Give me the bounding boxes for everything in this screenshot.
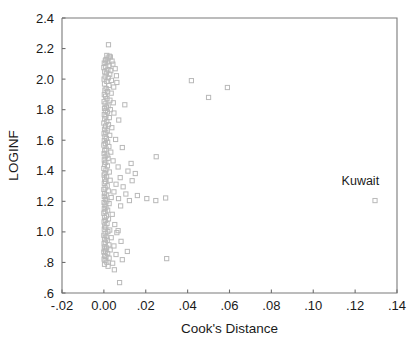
x-tick-label: .06 [220, 298, 238, 313]
data-point [165, 257, 169, 261]
x-tick-label: -.02 [51, 298, 73, 313]
data-point [145, 196, 149, 200]
data-point [111, 159, 115, 163]
data-point [123, 103, 127, 107]
data-point [373, 198, 377, 202]
data-point [129, 161, 133, 165]
x-tick-label: .04 [179, 298, 197, 313]
data-point [154, 155, 158, 159]
data-point [113, 222, 117, 226]
data-point [116, 165, 120, 169]
x-tick-label: .08 [262, 298, 280, 313]
x-tick-label: .14 [388, 298, 406, 313]
annotations-layer: Kuwait [342, 174, 380, 188]
y-tick-label: 2.4 [36, 11, 54, 26]
data-point [126, 169, 130, 173]
data-point [121, 185, 125, 189]
data-point [103, 88, 107, 92]
y-tick-label: .6 [43, 286, 54, 301]
data-point [107, 83, 111, 87]
data-point [109, 195, 113, 199]
data-point [106, 43, 110, 47]
data-point [125, 249, 129, 253]
data-point [120, 258, 124, 262]
data-point [110, 212, 114, 216]
y-axis-title: LOGINF [6, 130, 21, 180]
data-point [115, 80, 119, 84]
data-point [117, 281, 121, 285]
x-axis-tick-labels: -.020.00.02.04.06.08.10.12.14 [51, 298, 406, 313]
y-tick-label: 2.0 [36, 72, 54, 87]
data-point [133, 171, 137, 175]
data-point [112, 85, 116, 89]
data-point [114, 74, 118, 78]
data-point [189, 79, 193, 83]
data-point [127, 198, 131, 202]
y-axis-tick-labels: 2.42.22.01.81.61.41.21.0.8.6 [36, 11, 54, 301]
data-point [154, 198, 158, 202]
data-point [124, 192, 128, 196]
y-tick-label: 1.8 [36, 102, 54, 117]
data-point [114, 252, 118, 256]
data-point [118, 176, 122, 180]
y-tick-label: 1.6 [36, 133, 54, 148]
data-point [102, 220, 106, 224]
plot-canvas: -.020.00.02.04.06.08.10.12.14 2.42.22.01… [0, 0, 418, 343]
data-points-layer [102, 43, 377, 285]
x-tick-label: 0.00 [91, 298, 116, 313]
data-point [112, 268, 116, 272]
data-point [117, 118, 121, 122]
data-point [164, 196, 168, 200]
y-tick-label: .8 [43, 255, 54, 270]
data-point [111, 261, 115, 265]
data-point [104, 86, 108, 90]
data-point [206, 95, 210, 99]
y-tick-label: 1.2 [36, 194, 54, 209]
data-point [112, 190, 116, 194]
data-point [225, 85, 229, 89]
x-axis-title: Cook's Distance [181, 321, 278, 336]
data-point [119, 239, 123, 243]
data-point [120, 145, 124, 149]
data-point [114, 137, 118, 141]
data-point [113, 67, 117, 71]
x-tick-label: .02 [137, 298, 155, 313]
data-point [130, 179, 134, 183]
data-point [135, 193, 139, 197]
scatter-plot-figure: -.020.00.02.04.06.08.10.12.14 2.42.22.01… [0, 0, 418, 343]
point-annotation-label: Kuwait [342, 174, 380, 188]
y-tick-label: 1.0 [36, 224, 54, 239]
y-tick-label: 1.4 [36, 163, 54, 178]
x-tick-label: .10 [304, 298, 322, 313]
y-tick-label: 2.2 [36, 41, 54, 56]
data-point [114, 182, 118, 186]
data-point [116, 196, 120, 200]
data-point [119, 204, 123, 208]
x-tick-label: .12 [346, 298, 364, 313]
